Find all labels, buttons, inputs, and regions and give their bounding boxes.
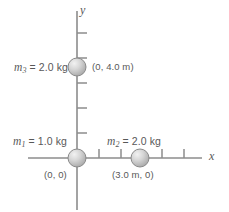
mass-value-m2: = 2.0 kg bbox=[123, 135, 161, 147]
y-axis-label: y bbox=[80, 4, 85, 16]
mass-label-m2: m2 = 2.0 kg bbox=[107, 136, 161, 149]
mass-subscript-m3: 3 bbox=[22, 66, 26, 75]
mass-sphere-m3 bbox=[68, 58, 86, 76]
mass-value-m1: = 1.0 kg bbox=[29, 135, 67, 147]
mass-label-m1: m1 = 1.0 kg bbox=[13, 136, 67, 149]
mass-subscript-m1: 1 bbox=[21, 140, 25, 149]
x-axis-label: x bbox=[209, 150, 214, 162]
mass-value-m3: = 2.0 kg bbox=[30, 61, 68, 73]
coordinate-axes-svg bbox=[0, 0, 229, 212]
mass-sphere-m2 bbox=[131, 149, 149, 167]
mass-subscript-m2: 2 bbox=[115, 140, 119, 149]
mass-label-m3: m3 = 2.0 kg bbox=[14, 62, 68, 75]
mass-sphere-m1 bbox=[68, 149, 86, 167]
coordinate-label-m1: (0, 0) bbox=[44, 170, 67, 180]
coordinate-label-m3: (0, 4.0 m) bbox=[92, 62, 134, 72]
coordinate-label-m2: (3.0 m, 0) bbox=[112, 170, 154, 180]
physics-diagram-figure: y x m3 = 2.0 kg (0, 4.0 m) m1 = 1.0 kg (… bbox=[0, 0, 229, 212]
y-axis-ticks bbox=[77, 33, 87, 133]
